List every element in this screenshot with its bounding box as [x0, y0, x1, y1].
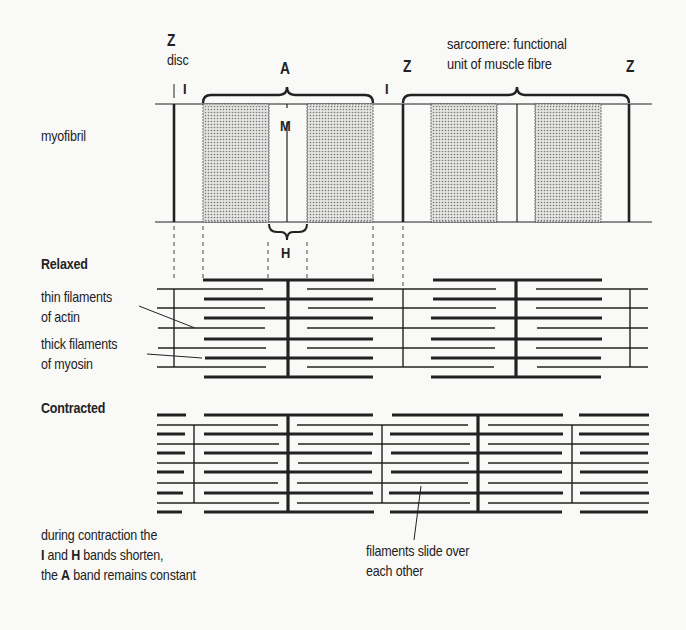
i-band-label: I: [183, 80, 186, 97]
a-band-brace: [203, 87, 373, 103]
contraction-note-line2: I and H bands shorten,: [41, 547, 163, 564]
a-band-label: A: [280, 60, 290, 77]
z-label-2: Z: [403, 58, 411, 75]
sarcomere-label-line1: sarcomere: functional: [447, 35, 567, 52]
a-band-left-half-1: [203, 104, 269, 222]
thin-filaments-label-line1: thin filaments: [41, 289, 112, 306]
a-band-right-half-2: [535, 104, 601, 222]
contraction-note-line3: the A band remains constant: [41, 567, 196, 584]
z-disc-label: Z: [167, 32, 175, 49]
disc-label: disc: [167, 52, 189, 69]
slide-label-line2: each other: [366, 563, 423, 580]
contracted-filaments: [157, 415, 649, 540]
relaxed-heading: Relaxed: [41, 256, 88, 273]
myofibril-label: myofibril: [41, 128, 86, 145]
thick-filaments-label-line1: thick filaments: [41, 336, 117, 353]
a-band-right-half-1: [307, 104, 373, 222]
sarcomere-label-line2: unit of muscle fibre: [447, 55, 552, 72]
z-label-3: Z: [626, 58, 634, 75]
relaxed-filaments: [139, 280, 648, 378]
myofibril-band-diagram: [155, 84, 652, 286]
i-band-label-2: I: [385, 80, 388, 97]
sarcomere-brace: [403, 87, 629, 103]
thin-filaments-label-line2: of actin: [41, 309, 80, 326]
thick-filaments-label-line2: of myosin: [41, 356, 93, 373]
m-line-label: M: [280, 117, 291, 134]
slide-label-line1: filaments slide over: [366, 543, 469, 560]
contracted-heading: Contracted: [41, 400, 105, 417]
h-zone-label: H: [281, 244, 290, 261]
thin-filament-pointer: [139, 306, 195, 328]
h-zone-brace: [269, 224, 307, 240]
contraction-note-line1: during contraction the: [41, 527, 157, 544]
a-band-left-half-2: [431, 104, 497, 222]
